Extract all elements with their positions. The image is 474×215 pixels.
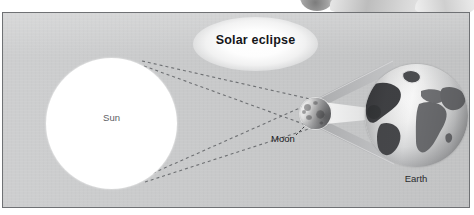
figure-title: Solar eclipse — [193, 33, 318, 47]
sun-label: Sun — [46, 112, 177, 123]
figure-page: Sun — [0, 0, 474, 215]
solar-eclipse-figure: Sun — [2, 12, 470, 208]
scan-artifact-blob — [300, 0, 334, 11]
earth-label: Earth — [381, 173, 451, 184]
moon-label: Moon — [271, 133, 295, 144]
sun-body — [46, 58, 177, 189]
continent-africa — [416, 102, 447, 152]
moon-crater — [302, 110, 306, 114]
earth-body — [365, 64, 468, 167]
eclipse-shadow-spot — [367, 105, 381, 119]
moon-crater — [319, 121, 324, 125]
moon-crater — [313, 101, 318, 105]
moon-crater — [316, 110, 325, 119]
earth-continents — [365, 64, 468, 167]
moon-crater — [306, 115, 312, 120]
continent-south-america — [377, 123, 400, 155]
island-madagascar — [445, 133, 452, 142]
moon-body — [300, 98, 331, 129]
continent-asia — [440, 87, 465, 110]
